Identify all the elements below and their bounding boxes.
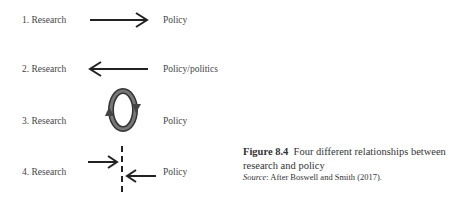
cycle-icon — [103, 88, 143, 132]
source-label: Source — [243, 172, 266, 182]
row-3-right-label: Policy — [163, 115, 187, 127]
arrow-left-icon — [88, 61, 150, 77]
row-4-left-label: 4. Research — [22, 166, 66, 178]
figure-source: Source: After Boswell and Smith (2017). — [243, 172, 448, 183]
figure-number: Figure 8.4 — [243, 146, 288, 157]
row-3-left-label: 3. Research — [22, 115, 66, 127]
row-2-left-label: 2. Research — [22, 63, 66, 75]
figure-caption: Figure 8.4 Four different relationships … — [243, 145, 448, 183]
opposing-arrows-barrier-icon — [86, 144, 158, 194]
row-2-right-label: Policy/politics — [163, 63, 218, 75]
row-1-right-label: Policy — [163, 14, 187, 26]
row-4-right-label: Policy — [163, 166, 187, 178]
row-1-left-label: 1. Research — [22, 14, 66, 26]
arrow-right-icon — [88, 12, 150, 28]
source-text: : After Boswell and Smith (2017). — [266, 172, 382, 182]
